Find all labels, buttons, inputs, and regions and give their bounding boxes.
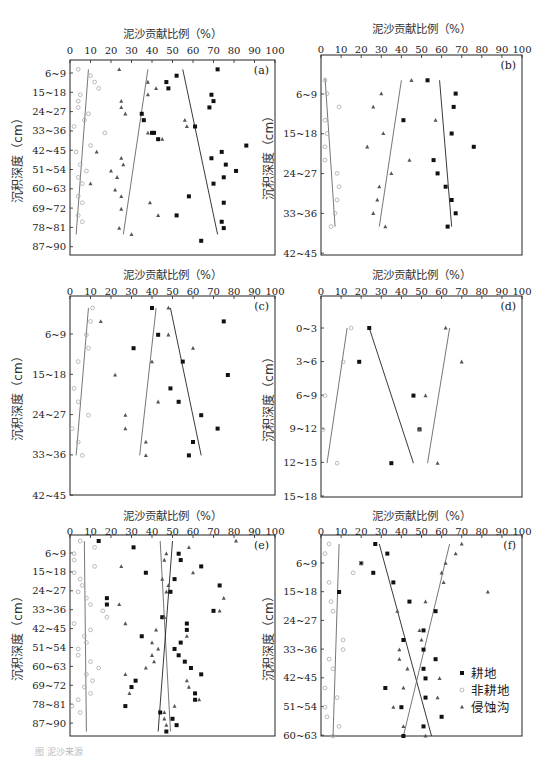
gully-marker	[420, 638, 424, 642]
x-tick-label: 40	[146, 45, 159, 56]
cropland-marker	[389, 461, 393, 465]
gully-marker	[146, 131, 150, 135]
noncropland-marker	[80, 182, 84, 186]
x-tick-label: 60	[187, 286, 200, 297]
gully-marker	[191, 346, 195, 350]
noncropland-marker	[80, 220, 84, 224]
x-tick-label: 0	[67, 45, 73, 56]
panel-label: (e)	[254, 539, 269, 552]
gully-marker	[144, 666, 148, 670]
gully-marker	[409, 78, 413, 82]
cropland-marker	[132, 346, 136, 350]
cropland-marker	[411, 394, 415, 398]
cropland-marker	[367, 326, 371, 330]
cropland-marker	[156, 333, 160, 337]
noncropland-marker	[76, 194, 80, 198]
cropland-marker	[218, 583, 222, 587]
gully-marker	[123, 413, 127, 417]
cropland-marker	[168, 590, 172, 594]
gully-marker	[401, 686, 405, 690]
cropland-marker	[144, 571, 148, 575]
gully-marker	[166, 333, 170, 337]
noncropland-marker	[93, 545, 97, 549]
noncropland-marker	[70, 704, 74, 708]
x-tick-label: 0	[318, 44, 324, 55]
noncropland-marker	[76, 99, 80, 103]
noncropland-marker	[89, 692, 93, 696]
cropland-marker	[440, 715, 444, 719]
noncropland-marker	[335, 461, 339, 465]
y-tick-label: 12~15	[283, 457, 317, 468]
gully-marker	[164, 552, 168, 556]
noncropland-marker	[89, 628, 93, 632]
cropland-marker	[193, 691, 197, 695]
trend-line	[379, 80, 401, 226]
cropland-marker	[156, 137, 160, 141]
noncropland-marker	[76, 106, 80, 110]
x-tick-label: 100	[512, 44, 531, 55]
x-tick-label: 100	[265, 286, 284, 297]
legend-label: 非耕地	[471, 683, 510, 698]
plot-frame	[70, 296, 275, 495]
cropland-marker	[158, 710, 162, 714]
x-tick-label: 0	[67, 286, 73, 297]
y-tick-label: 24~27	[32, 106, 66, 117]
x-tick-label: 70	[207, 286, 220, 297]
cropland-marker	[434, 657, 438, 661]
x-axis-title: 泥沙贡献比例（%）	[372, 268, 471, 282]
gully-marker	[123, 426, 127, 430]
cropland-marker	[422, 724, 426, 728]
cropland-marker	[422, 628, 426, 632]
trend-line	[158, 541, 172, 732]
x-tick-label: 70	[207, 45, 220, 56]
gully-marker	[444, 326, 448, 330]
x-tick-label: 90	[496, 286, 509, 297]
noncropland-marker	[97, 87, 101, 91]
gully-marker	[187, 545, 191, 549]
noncropland-marker	[331, 667, 335, 671]
noncropland-marker	[72, 125, 76, 129]
cropland-marker	[199, 564, 203, 568]
cropland-marker	[460, 671, 464, 675]
gully-marker	[113, 188, 117, 192]
gully-marker	[89, 181, 93, 185]
x-tick-label: 30	[125, 286, 138, 297]
gully-marker	[218, 609, 222, 613]
gully-marker	[191, 571, 195, 575]
cropland-marker	[123, 704, 127, 708]
noncropland-marker	[78, 93, 82, 97]
cropland-marker	[130, 685, 134, 689]
gully-marker	[365, 145, 369, 149]
noncropland-marker	[349, 326, 353, 330]
noncropland-marker	[341, 638, 345, 642]
cropland-marker	[222, 175, 226, 179]
cropland-marker	[407, 600, 411, 604]
noncropland-marker	[87, 413, 91, 417]
noncropland-marker	[78, 539, 82, 543]
cropland-marker	[179, 641, 183, 645]
noncropland-marker	[335, 172, 339, 176]
cropland-marker	[105, 603, 109, 607]
x-axis-title: 泥沙贡献比例（%）	[372, 22, 471, 36]
cropland-marker	[222, 226, 226, 230]
y-tick-label: 33~36	[283, 644, 317, 655]
y-tick-label: 6~9	[296, 89, 317, 100]
y-tick-label: 6~9	[296, 390, 317, 401]
noncropland-marker	[85, 169, 89, 173]
gully-marker	[166, 306, 170, 310]
cropland-marker	[168, 386, 172, 390]
cropland-marker	[171, 717, 175, 721]
gully-marker	[117, 67, 121, 71]
x-tick-label: 0	[318, 286, 324, 297]
x-axis-title: 泥沙贡献比例（%）	[123, 509, 222, 523]
gully-marker	[185, 124, 189, 128]
cropland-marker	[193, 125, 197, 129]
x-tick-label: 90	[248, 286, 261, 297]
cropland-marker	[422, 648, 426, 652]
y-tick-label: 69~72	[32, 680, 66, 691]
cropland-marker	[385, 552, 389, 556]
cropland-marker	[216, 427, 220, 431]
cropland-marker	[150, 306, 154, 310]
cropland-marker	[244, 144, 248, 148]
cropland-marker	[177, 400, 181, 404]
